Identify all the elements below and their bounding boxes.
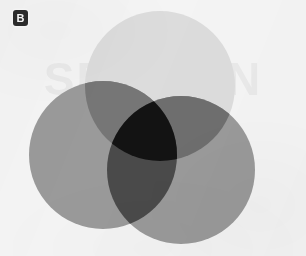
- venn-diagram: [0, 0, 306, 256]
- figure-panel: SECTION: [0, 0, 306, 256]
- venn-diagram-svg: [0, 0, 306, 256]
- panel-label-badge: B: [13, 10, 28, 26]
- panel-label-letter: B: [17, 13, 25, 24]
